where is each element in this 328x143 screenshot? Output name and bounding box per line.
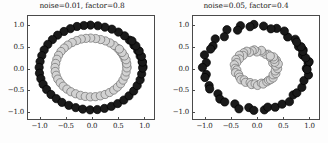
series-class-1 [51, 34, 131, 101]
panel-left-title: noise=0.01, factor=0.8 [0, 1, 164, 11]
scatter-point [259, 22, 267, 30]
panel-right-scatter-plot [193, 16, 319, 119]
y-tick-mark [27, 112, 30, 113]
y-tick-label: 1.0 [1, 21, 24, 29]
scatter-point [128, 37, 136, 45]
x-tick-mark [309, 117, 310, 120]
y-tick-label: 0.5 [1, 43, 24, 51]
x-tick-mark [283, 117, 284, 120]
scatter-point [206, 85, 214, 93]
scatter-point [233, 26, 241, 34]
x-tick-label: −1.0 [196, 122, 212, 130]
y-tick-mark [192, 25, 195, 26]
scatter-point [266, 52, 274, 60]
y-tick-label: −1.0 [1, 108, 24, 116]
panel-right-axes: −1.0−0.50.00.51.0−1.0−0.50.00.51.0 [192, 15, 320, 120]
y-tick-mark [192, 47, 195, 48]
series-class-0 [198, 20, 313, 114]
y-tick-mark [27, 90, 30, 91]
y-tick-label: 0.5 [166, 43, 189, 51]
panel-right: noise=0.05, factor=0.4 −1.0−0.50.00.51.0… [164, 0, 328, 143]
scatter-point [293, 38, 301, 46]
x-tick-mark [205, 117, 206, 120]
scatter-point [303, 65, 311, 73]
scatter-point [221, 98, 229, 106]
y-tick-mark [192, 90, 195, 91]
scatter-point [250, 106, 258, 114]
x-tick-label: 1.0 [304, 122, 315, 130]
y-tick-label: 0.0 [166, 65, 189, 73]
x-tick-mark [40, 117, 41, 120]
x-tick-mark [118, 117, 119, 120]
scatter-point [200, 51, 208, 59]
scatter-point [220, 33, 228, 41]
panel-right-title: noise=0.05, factor=0.4 [164, 1, 328, 11]
scatter-point [264, 103, 272, 111]
scatter-point [235, 105, 243, 113]
x-tick-label: 1.0 [139, 122, 150, 130]
figure-canvas: noise=0.01, factor=0.8 −1.0−0.50.00.51.0… [0, 0, 328, 143]
panel-left-scatter-plot [28, 16, 154, 119]
y-tick-label: −1.0 [166, 108, 189, 116]
x-tick-mark [66, 117, 67, 120]
x-tick-mark [231, 117, 232, 120]
y-tick-label: −0.5 [166, 86, 189, 94]
y-tick-label: −0.5 [1, 86, 24, 94]
x-tick-label: 0.0 [87, 122, 98, 130]
y-tick-mark [192, 112, 195, 113]
x-tick-label: −1.0 [31, 122, 47, 130]
x-tick-mark [144, 117, 145, 120]
y-tick-mark [27, 25, 30, 26]
series-class-1 [230, 46, 282, 90]
x-tick-label: 0.5 [113, 122, 124, 130]
y-tick-mark [192, 69, 195, 70]
scatter-point [79, 105, 87, 113]
scatter-point [201, 73, 209, 81]
y-tick-label: 0.0 [1, 65, 24, 73]
x-tick-mark [92, 117, 93, 120]
scatter-point [280, 27, 288, 35]
x-tick-label: −0.5 [223, 122, 239, 130]
panel-left: noise=0.01, factor=0.8 −1.0−0.50.00.51.0… [0, 0, 164, 143]
x-tick-label: 0.5 [278, 122, 289, 130]
y-tick-label: 1.0 [166, 21, 189, 29]
y-tick-mark [27, 69, 30, 70]
y-tick-mark [27, 47, 30, 48]
x-tick-label: 0.0 [252, 122, 263, 130]
x-tick-label: −0.5 [58, 122, 74, 130]
scatter-point [246, 23, 254, 31]
x-tick-mark [257, 117, 258, 120]
panel-left-axes: −1.0−0.50.00.51.0−1.0−0.50.00.51.0 [27, 15, 155, 120]
scatter-point [115, 45, 123, 53]
